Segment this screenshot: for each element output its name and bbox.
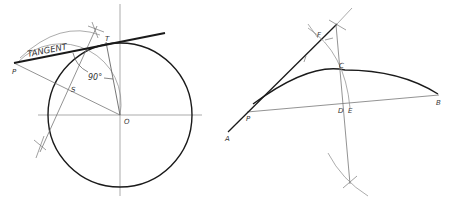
geometry-diagram: TANGENT P T S O 90° A P B C D E F: [0, 0, 455, 204]
bisector-tick-top-a: [88, 26, 104, 32]
main-arc: [253, 69, 438, 104]
diagram-stage: TANGENT P T S O 90° A P B C D E F: [0, 0, 455, 204]
label-p-left: P: [12, 68, 17, 76]
right-angle-arc-2: [104, 78, 113, 79]
left-figure: TANGENT P T S O 90°: [12, 4, 202, 196]
label-a: A: [224, 135, 230, 143]
label-90-deg: 90°: [88, 73, 102, 82]
label-s: S: [71, 86, 76, 94]
tangent-extension: [337, 8, 352, 24]
label-o-left: O: [124, 118, 130, 126]
angle-indicator: [325, 38, 333, 40]
label-t: T: [105, 35, 110, 43]
line-po: [14, 63, 120, 115]
bisector-vertical: [336, 25, 350, 184]
label-p-right: P: [246, 115, 251, 123]
label-d: D: [338, 107, 344, 115]
right-figure: A P B C D E F: [224, 8, 441, 196]
label-f: F: [317, 31, 322, 39]
label-c: C: [339, 62, 344, 70]
tangent-line-af: [228, 24, 337, 132]
label-e: E: [348, 107, 353, 115]
label-b: B: [436, 99, 441, 107]
bisector-tick-bottom-a: [34, 140, 46, 150]
